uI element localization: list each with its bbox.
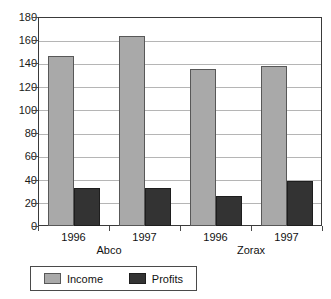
bar-income-1996-2 [190,69,216,226]
bar-income-1997-3 [261,66,287,226]
chart-legend: IncomeProfits [30,266,197,291]
bar-profits-1997-3 [287,181,313,226]
x-axis-year-label: 1996 [203,231,227,243]
bars-layer [38,17,322,226]
legend-swatch-profits-icon [129,273,146,284]
bar-profits-1997-1 [145,188,171,226]
x-axis-tick-mark [322,226,323,231]
legend-item-income: Income [44,273,103,285]
x-axis-group-label-abco: Abco [96,244,121,256]
x-axis-tick-mark [38,226,39,231]
legend-item-profits: Profits [129,273,183,285]
x-axis-year-label: 1996 [61,231,85,243]
bar-income-1996-0 [48,56,74,226]
x-axis-tick-mark [251,226,252,231]
legend-label: Profits [152,273,183,285]
bar-income-1997-1 [119,36,145,226]
bar-profits-1996-0 [74,188,100,226]
legend-label: Income [67,273,103,285]
x-axis-year-label: 1997 [132,231,156,243]
x-axis-group-label-zorax: Zorax [237,244,265,256]
bar-chart: 180160140120100806040200 199619971996199… [0,0,331,299]
x-axis-year-label: 1997 [274,231,298,243]
bar-profits-1996-2 [216,196,242,226]
legend-swatch-income-icon [44,273,61,284]
x-axis-tick-mark [109,226,110,231]
x-axis-tick-mark [180,226,181,231]
